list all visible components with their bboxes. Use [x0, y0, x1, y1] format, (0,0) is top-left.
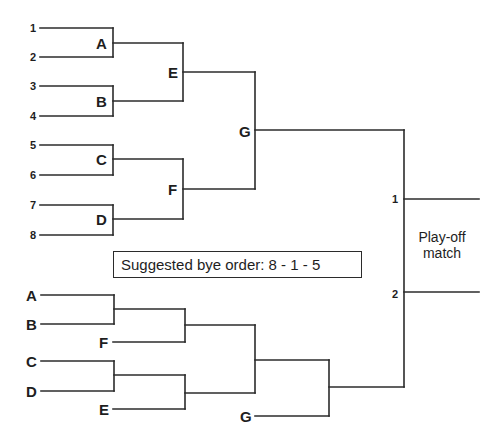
consolation-entry-label: G	[240, 409, 252, 424]
match-label: B	[96, 94, 107, 109]
match-label: F	[168, 182, 177, 197]
playoff-slot-label: 2	[392, 289, 398, 300]
seed-label: 3	[30, 81, 36, 92]
bye-order-note: Suggested bye order: 8 - 1 - 5	[113, 251, 362, 278]
match-label: E	[168, 65, 178, 80]
consolation-entry-label: C	[26, 354, 37, 369]
consolation-entry-label: E	[99, 402, 109, 417]
seed-label: 8	[30, 230, 36, 241]
match-label: C	[96, 152, 107, 167]
bye-order-text: Suggested bye order: 8 - 1 - 5	[121, 256, 320, 273]
seed-label: 2	[30, 52, 36, 63]
seed-label: 4	[30, 111, 36, 122]
consolation-entry-label: A	[26, 288, 37, 303]
consolation-entry-label: F	[99, 335, 108, 350]
bracket-lines	[0, 0, 503, 445]
match-label: A	[96, 36, 107, 51]
match-label: G	[239, 124, 251, 139]
playoff-title-line2: match	[408, 245, 476, 261]
playoff-slot-label: 1	[392, 194, 398, 205]
match-label: D	[96, 212, 107, 227]
seed-label: 6	[30, 170, 36, 181]
consolation-entry-label: B	[26, 317, 37, 332]
seed-label: 5	[30, 140, 36, 151]
playoff-match-title: Play-off match	[408, 229, 476, 261]
consolation-entry-label: D	[26, 384, 37, 399]
seed-label: 7	[30, 200, 36, 211]
seed-label: 1	[30, 23, 36, 34]
playoff-title-line1: Play-off	[408, 229, 476, 245]
